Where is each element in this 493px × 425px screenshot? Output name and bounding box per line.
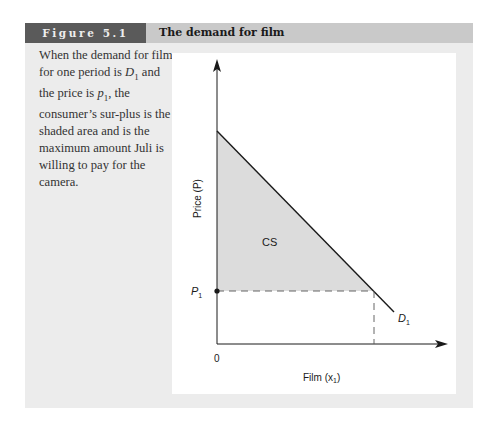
d1-label: D1 (398, 312, 410, 326)
y-axis-label: Price (P) (192, 179, 203, 218)
figure-header: Figure 5.1 The demand for film (25, 23, 473, 43)
figure-number: Figure 5.1 (25, 23, 146, 43)
figure-caption: When the demand for film for one period … (39, 47, 174, 190)
p1-label: P1 (191, 285, 202, 299)
origin-label: 0 (214, 353, 220, 364)
caption-d-symbol: D (125, 65, 134, 79)
figure-box: Figure 5.1 The demand for film When the … (25, 23, 473, 408)
cs-label: CS (262, 236, 277, 248)
x-axis-label: Film (x1) (303, 372, 340, 384)
demand-chart: P1 D1 CS 0 Film (x1) Price (P) (172, 53, 456, 394)
price-point-dot (214, 288, 219, 293)
figure-title: The demand for film (159, 23, 285, 43)
chart-panel: P1 D1 CS 0 Film (x1) Price (P) (172, 53, 456, 394)
